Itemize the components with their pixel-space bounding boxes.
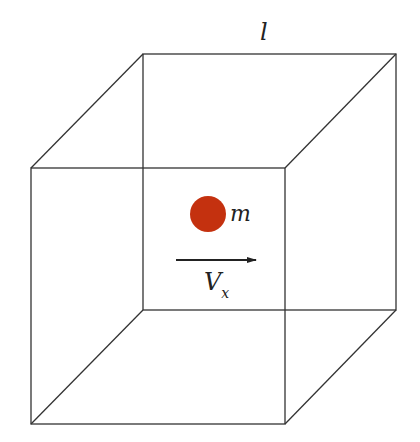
cube-edge-top-left	[31, 54, 143, 168]
cube-edge-bottom-left	[31, 310, 143, 424]
cube-edge-bottom-right	[285, 310, 396, 424]
particle	[190, 196, 226, 232]
mass-label: m	[230, 201, 251, 226]
edge-length-label: l	[260, 18, 268, 46]
cube-diagram: l m Vx	[0, 0, 420, 442]
cube-edge-top-right	[285, 54, 396, 168]
velocity-label: Vx	[204, 268, 229, 301]
